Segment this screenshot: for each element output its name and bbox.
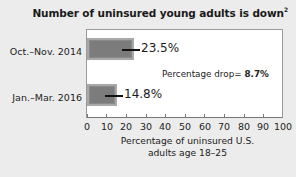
x-axis-label-line-2: adults age 18–25	[100, 147, 275, 159]
x-tick-label: 100	[271, 121, 295, 132]
drop-value: 8.7%	[244, 69, 268, 79]
x-tick	[146, 114, 147, 118]
title-footnote: 2	[284, 6, 288, 13]
x-tick	[244, 114, 245, 118]
x-tick	[263, 114, 264, 118]
x-axis-label: Percentage of uninsured U.S. adults age …	[100, 135, 275, 159]
chart-title-text: Number of uninsured young adults is down	[32, 7, 284, 19]
category-label-2014: Oct.–Nov. 2014	[2, 46, 82, 57]
x-tick	[106, 114, 107, 118]
value-label-2014: 23.5%	[141, 41, 179, 55]
percentage-drop-annotation: Percentage drop= 8.7%	[162, 69, 269, 79]
leader-line-2014	[122, 49, 140, 51]
x-tick	[185, 114, 186, 118]
chart-title: Number of uninsured young adults is down…	[0, 6, 288, 19]
value-label-2016: 14.8%	[124, 87, 162, 101]
x-tick	[87, 114, 88, 118]
leader-line-2016	[105, 95, 123, 97]
x-tick	[204, 114, 205, 118]
category-label-2016: Jan.–Mar. 2016	[2, 92, 82, 103]
x-tick	[165, 114, 166, 118]
x-tick	[224, 114, 225, 118]
drop-prefix: Percentage drop=	[162, 69, 244, 79]
x-axis-label-line-1: Percentage of uninsured U.S.	[100, 135, 275, 147]
x-tick	[126, 114, 127, 118]
